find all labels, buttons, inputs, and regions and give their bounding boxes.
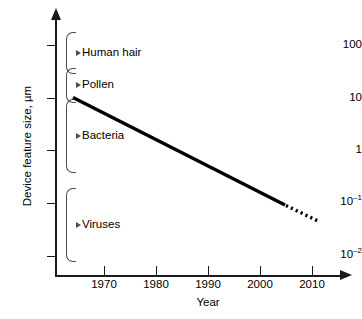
trend-line-dashed-projection [286, 206, 320, 223]
trend-line-group [0, 0, 362, 319]
figure-log-feature-size-vs-year: 100 10 1 10–1 10–2 1970 1980 1990 2000 2… [0, 0, 362, 319]
trend-line-solid [73, 98, 285, 206]
